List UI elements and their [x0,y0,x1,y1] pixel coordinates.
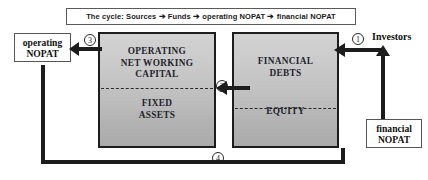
arrow-1-head-icon [334,43,345,57]
step-marker-3: 3 [84,34,96,46]
diagram-canvas: The cycle: Sources ➔ Funds ➔ operating N… [0,0,428,180]
arrow-2-head-icon [216,81,227,95]
path-4-vertical-left [41,65,45,164]
tagbox-financial-nopat: financial NOPAT [366,119,422,148]
label-operating-net-working-capital: OPERATING NET WORKING CAPITAL [100,46,214,81]
divider-assets-dashed [101,88,213,89]
tag-operating-nopat-line1: operating [23,37,62,48]
block-operating-assets: OPERATING NET WORKING CAPITAL FIXED ASSE… [98,32,216,148]
label-fixed-line2: ASSETS [100,110,214,122]
label-financial-debts: FINANCIAL DEBTS [234,56,337,79]
tag-financial-nopat-line2: NOPAT [378,134,410,145]
title-banner-text: The cycle: Sources ➔ Funds ➔ operating N… [86,12,336,21]
label-equity: EQUITY [234,106,337,118]
path-4-horizontal-bottom [41,160,345,164]
label-onwc-line1: OPERATING [100,46,214,58]
label-fdebts-line1: FINANCIAL [234,56,337,68]
label-onwc-line2: NET WORKING [100,58,214,70]
label-fdebts-line2: DEBTS [234,68,337,80]
label-fixed-line1: FIXED [100,98,214,110]
label-equity-text: EQUITY [234,106,337,118]
arrow-3-shaft [78,47,102,51]
label-fixed-assets: FIXED ASSETS [100,98,214,121]
block-financial-sources: FINANCIAL DEBTS EQUITY [232,32,339,148]
label-onwc-line3: CAPITAL [100,69,214,81]
arrow-2-shaft [227,86,250,90]
path-4-vertical-right [341,148,345,164]
label-investors: Investors [372,31,411,42]
tag-financial-nopat-line1: financial [376,123,412,134]
tag-operating-nopat-line2: NOPAT [26,48,58,59]
title-banner: The cycle: Sources ➔ Funds ➔ operating N… [66,8,356,25]
arrow-up-shaft [381,56,385,119]
arrow-3-head-icon [69,42,79,56]
step-marker-1: 1 [352,33,364,45]
tagbox-operating-nopat: operating NOPAT [14,33,71,62]
arrow-up-head-icon [376,45,390,56]
